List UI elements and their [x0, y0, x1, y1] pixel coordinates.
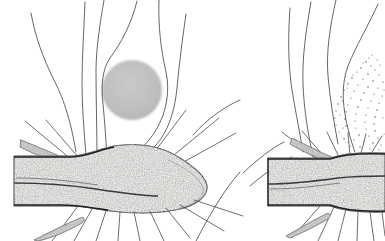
stimulus-disc	[102, 60, 162, 120]
animal-head-right	[268, 153, 385, 213]
illustration-canvas	[0, 0, 385, 241]
illustration-figure: fish head with extended barbels facing r…	[0, 0, 385, 241]
